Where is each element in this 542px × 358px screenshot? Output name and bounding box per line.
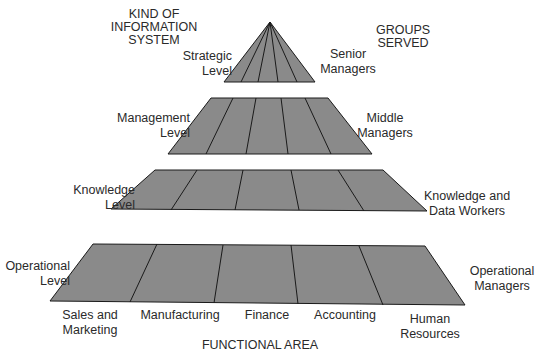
label-line: Data Workers	[412, 204, 522, 219]
label-line: Knowledge	[50, 183, 135, 198]
functional-area-finance: Finance	[232, 308, 302, 323]
functional-area-manufacturing: Manufacturing	[130, 308, 230, 323]
level-label-knowledge: Knowledge Level	[50, 183, 135, 213]
label-line: Operational	[462, 264, 542, 279]
label-line: Level	[50, 198, 135, 213]
tier-strategic	[224, 22, 315, 82]
group-label-middle: Middle Managers	[345, 111, 425, 141]
functional-area-accounting: Accounting	[305, 308, 385, 323]
label-line: Marketing	[55, 323, 125, 338]
tier-knowledge	[111, 170, 427, 211]
label-line: Accounting	[305, 308, 385, 323]
label-line: Strategic	[160, 49, 232, 64]
label-line: Human	[390, 312, 470, 327]
level-label-operational: Operational Level	[0, 259, 70, 289]
group-label-senior: Senior Managers	[308, 47, 388, 77]
label-line: Finance	[232, 308, 302, 323]
label-line: Senior	[308, 47, 388, 62]
label-line: Resources	[390, 327, 470, 342]
functional-area-header: FUNCTIONAL AREA	[170, 338, 350, 353]
tier-operational	[50, 244, 465, 305]
group-label-operational: Operational Managers	[462, 264, 542, 294]
label-line: Managers	[345, 126, 425, 141]
label-line: Managers	[308, 62, 388, 77]
functional-area-human-resources: Human Resources	[390, 312, 470, 342]
label-line: Knowledge and	[412, 189, 522, 204]
label-line: Level	[100, 126, 190, 141]
functional-area-sales-marketing: Sales and Marketing	[55, 308, 125, 338]
label-line: Manufacturing	[130, 308, 230, 323]
label-line: Managers	[462, 279, 542, 294]
level-label-management: Management Level	[100, 111, 190, 141]
pyramid-diagram	[0, 0, 542, 358]
label-line: Level	[160, 64, 232, 79]
header-line: SYSTEM	[104, 34, 204, 47]
level-label-strategic: Strategic Level	[160, 49, 232, 79]
group-label-knowledge-workers: Knowledge and Data Workers	[412, 189, 522, 219]
label-line: Management	[100, 111, 190, 126]
label-line: Sales and	[55, 308, 125, 323]
tier-management	[168, 98, 372, 154]
label-line: Level	[0, 274, 70, 289]
kind-of-system-header: KIND OF INFORMATION SYSTEM	[104, 8, 204, 47]
label-line: Operational	[0, 259, 70, 274]
label-line: Middle	[345, 111, 425, 126]
